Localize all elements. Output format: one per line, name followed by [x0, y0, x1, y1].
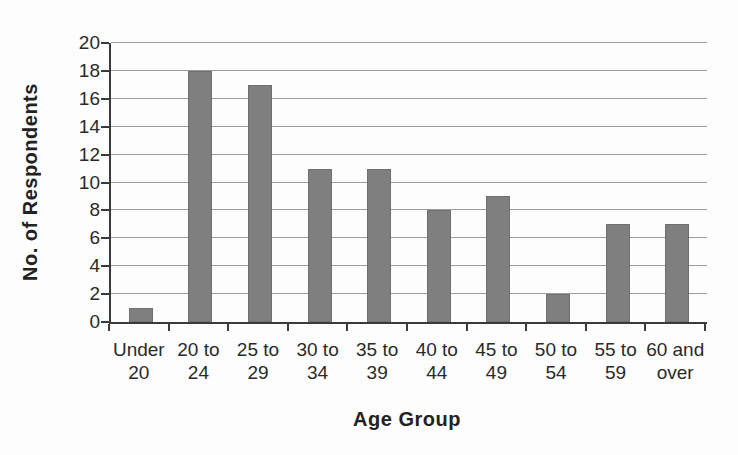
y-tick-mark-4: [101, 265, 109, 267]
y-tick-mark-10: [101, 182, 109, 184]
y-tick-mark-18: [101, 70, 109, 72]
x-tick-mark-9: [644, 324, 646, 331]
y-tick-mark-20: [101, 42, 109, 44]
x-tick-mark-4: [346, 324, 348, 331]
y-tick-label-2: 2: [58, 283, 100, 305]
x-category-label-2: 20 to 24: [168, 338, 228, 384]
x-tick-mark-10: [704, 324, 706, 331]
bar-20-to-24: [188, 71, 212, 322]
y-tick-mark-12: [101, 154, 109, 156]
bar-60-and-over: [665, 224, 689, 322]
bar-40-to-44: [427, 210, 451, 322]
x-tick-mark-6: [466, 324, 468, 331]
bar-35-to-39: [367, 169, 391, 322]
y-tick-label-8: 8: [58, 199, 100, 221]
y-tick-label-0: 0: [58, 311, 100, 333]
y-tick-label-10: 10: [58, 172, 100, 194]
y-tick-label-20: 20: [58, 32, 100, 54]
y-tick-label-12: 12: [58, 144, 100, 166]
x-tick-mark-3: [287, 324, 289, 331]
x-tick-mark-8: [585, 324, 587, 331]
bar-25-to-29: [248, 85, 272, 322]
y-tick-mark-0: [101, 321, 109, 323]
x-tick-mark-5: [406, 324, 408, 331]
x-category-label-5: 35 to 39: [347, 338, 407, 384]
bar-30-to-34: [308, 169, 332, 322]
x-category-label-4: 30 to 34: [288, 338, 348, 384]
x-category-label-9: 55 to 59: [586, 338, 646, 384]
y-tick-mark-16: [101, 98, 109, 100]
gridline-y-20: [111, 42, 707, 43]
bar-55-to-59: [606, 224, 630, 322]
bar-50-to-54: [546, 294, 570, 322]
bar-chart-figure: No. of Respondents 02468101214161820 Und…: [0, 0, 738, 455]
x-tick-mark-0: [108, 324, 110, 331]
bar-under-20: [129, 308, 153, 322]
x-category-label-8: 50 to 54: [526, 338, 586, 384]
y-axis-title: No. of Respondents: [14, 43, 46, 322]
x-tick-mark-1: [168, 324, 170, 331]
x-category-label-10: 60 and over: [645, 338, 705, 384]
x-category-label-1: Under 20: [109, 338, 169, 384]
y-tick-mark-6: [101, 237, 109, 239]
x-tick-mark-7: [525, 324, 527, 331]
x-category-label-7: 45 to 49: [466, 338, 526, 384]
y-tick-mark-8: [101, 209, 109, 211]
x-category-label-6: 40 to 44: [407, 338, 467, 384]
y-tick-label-6: 6: [58, 227, 100, 249]
y-tick-label-14: 14: [58, 116, 100, 138]
x-tick-mark-2: [227, 324, 229, 331]
y-tick-mark-14: [101, 126, 109, 128]
y-tick-label-18: 18: [58, 60, 100, 82]
plot-area: [109, 43, 707, 324]
bar-45-to-49: [486, 196, 510, 322]
y-tick-mark-2: [101, 293, 109, 295]
x-axis-title: Age Group: [109, 408, 705, 431]
y-tick-label-4: 4: [58, 255, 100, 277]
x-category-label-3: 25 to 29: [228, 338, 288, 384]
y-tick-label-16: 16: [58, 88, 100, 110]
